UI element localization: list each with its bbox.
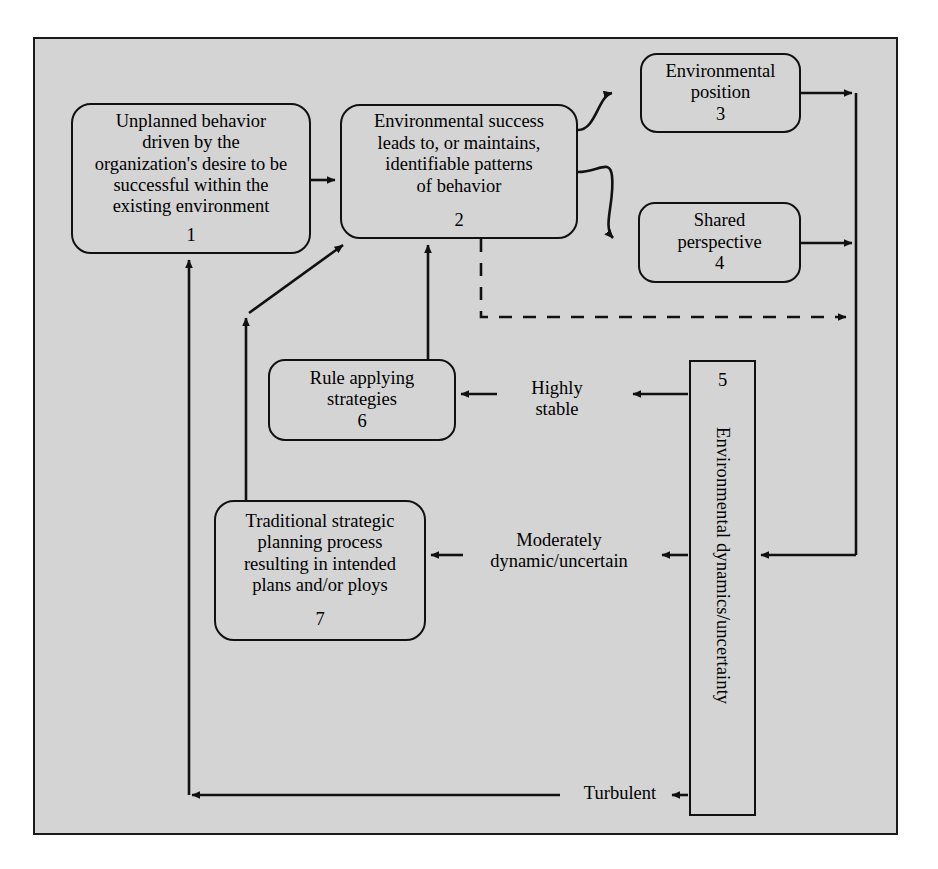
node-4-label: Shared perspective [677, 210, 761, 253]
node-environmental-dynamics-uncertainty[interactable]: 5 Environmental dynamics/uncertainty [689, 360, 756, 816]
node-1-number: 1 [186, 225, 195, 246]
node-5-number: 5 [718, 370, 727, 391]
edge-label-highly-stable: Highly stable [497, 378, 617, 421]
node-4-number: 4 [715, 253, 724, 274]
node-6-number: 6 [357, 411, 366, 432]
node-3-number: 3 [716, 104, 725, 125]
node-2-number: 2 [454, 210, 463, 231]
node-1-label: Unplanned behavior driven by the organiz… [95, 111, 288, 218]
edge-label-moderately-dynamic: Moderately dynamic/uncertain [466, 530, 652, 573]
node-6-label: Rule applying strategies [310, 368, 414, 411]
node-unplanned-behavior[interactable]: Unplanned behavior driven by the organiz… [71, 103, 311, 254]
node-rule-applying-strategies[interactable]: Rule applying strategies 6 [268, 359, 456, 441]
node-5-label: Environmental dynamics/uncertainty [712, 427, 733, 704]
edge-label-turbulent: Turbulent [565, 783, 675, 804]
node-7-label: Traditional strategic planning process r… [244, 511, 396, 597]
node-traditional-strategic-planning[interactable]: Traditional strategic planning process r… [214, 500, 426, 641]
node-environmental-success[interactable]: Environmental success leads to, or maint… [340, 104, 578, 239]
node-2-label: Environmental success leads to, or maint… [374, 111, 544, 197]
node-environmental-position[interactable]: Environmental position 3 [640, 53, 801, 133]
node-3-label: Environmental position [666, 61, 776, 104]
diagram-page: Unplanned behavior driven by the organiz… [0, 0, 938, 869]
node-shared-perspective[interactable]: Shared perspective 4 [638, 202, 801, 283]
node-7-number: 7 [315, 609, 324, 630]
